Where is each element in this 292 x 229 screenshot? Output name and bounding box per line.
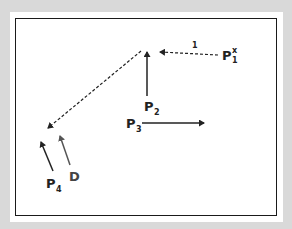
edge-label-1: 1 xyxy=(192,41,198,50)
label-p4: P 4 xyxy=(46,176,62,194)
svg-text:1: 1 xyxy=(232,56,238,65)
p1-dashed-arrow xyxy=(160,52,218,55)
vector-diagram: 1 P x 1 P 2 P 3 P 4 D xyxy=(0,0,292,229)
svg-text:4: 4 xyxy=(56,185,62,194)
svg-text:P: P xyxy=(222,48,232,63)
d-arrow xyxy=(60,136,70,165)
svg-text:P: P xyxy=(144,99,154,114)
label-p1: P x 1 xyxy=(222,46,238,65)
svg-text:P: P xyxy=(46,176,56,191)
svg-text:x: x xyxy=(232,46,238,55)
label-d: D xyxy=(69,169,80,184)
label-p3: P 3 xyxy=(126,116,142,134)
svg-text:P: P xyxy=(126,116,136,131)
p4-arrow xyxy=(41,142,53,171)
svg-text:2: 2 xyxy=(154,108,160,117)
label-p2: P 2 xyxy=(144,99,160,117)
svg-text:3: 3 xyxy=(136,125,142,134)
